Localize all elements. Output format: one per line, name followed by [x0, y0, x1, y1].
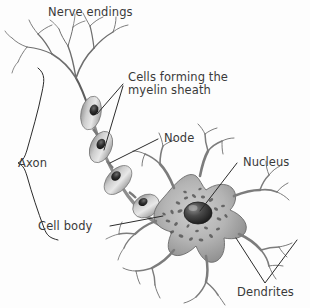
label-myelin-sheath-line2: myelin sheath	[128, 84, 211, 98]
label-node: Node	[164, 132, 194, 146]
label-nerve-endings: Nerve endings	[48, 6, 133, 20]
nerve-endings-branches	[5, 13, 128, 112]
label-cell-body: Cell body	[38, 220, 93, 234]
node-leader-line	[110, 139, 158, 163]
leader-lines	[18, 68, 297, 283]
label-nucleus: Nucleus	[243, 156, 289, 170]
neuron-illustration	[0, 0, 310, 308]
cell-body-soma	[154, 175, 246, 263]
myelinated-axon	[78, 94, 166, 228]
axon-brace	[18, 68, 58, 240]
label-dendrites: Dendrites	[237, 286, 294, 300]
nucleus	[184, 202, 212, 224]
neuron-diagram: Nerve endings Cells forming the myelin s…	[0, 0, 310, 308]
label-axon: Axon	[18, 157, 47, 171]
myelin-segment-1	[78, 94, 105, 131]
myelin-segment-2	[85, 128, 118, 167]
